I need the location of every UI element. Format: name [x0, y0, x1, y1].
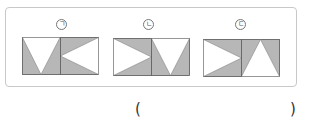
figure-option-3[interactable] — [203, 39, 280, 77]
answer-field[interactable] — [145, 102, 285, 118]
figure-option-2[interactable] — [113, 38, 190, 76]
answer-close-paren: ) — [290, 100, 296, 118]
figure-option-1[interactable] — [22, 37, 99, 75]
option-label-1: ㄱ — [56, 19, 67, 30]
answer-open-paren: ( — [135, 100, 141, 118]
option-label-2: ㄴ — [143, 19, 154, 30]
option-label-3: ㄷ — [235, 19, 246, 30]
